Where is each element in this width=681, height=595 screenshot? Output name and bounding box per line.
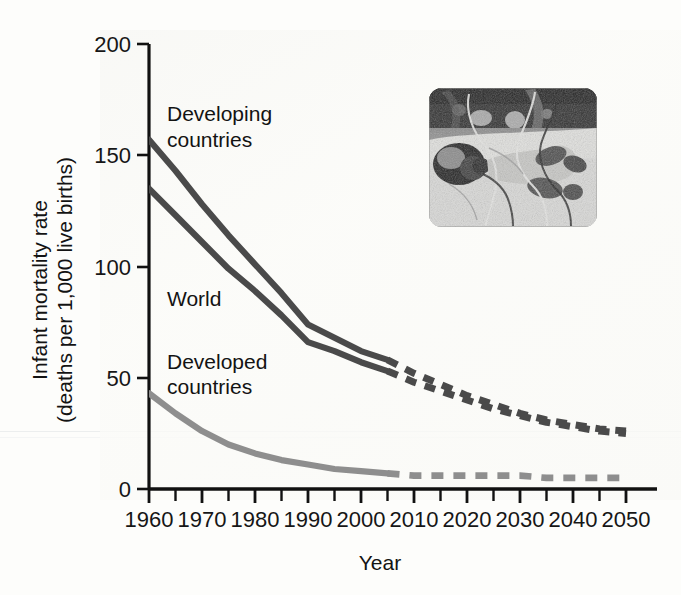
- x-tick-label-2020: 2020: [443, 507, 492, 532]
- y-tick-label-100: 100: [94, 255, 131, 280]
- x-tick-label-1990: 1990: [284, 507, 333, 532]
- x-tick-label-1970: 1970: [178, 507, 227, 532]
- developing-countries-label-line1: Developing: [167, 102, 272, 125]
- y-axis-title: Infant mortality rate (deaths per 1,000 …: [28, 157, 76, 423]
- x-axis-title: Year: [359, 551, 401, 574]
- x-tick-label-1980: 1980: [231, 507, 280, 532]
- inset-photo-graphic: [429, 88, 597, 227]
- world-label: World: [167, 287, 221, 310]
- y-tick-label-50: 50: [107, 366, 131, 391]
- developed-countries-label-line1: Developed: [167, 350, 267, 373]
- x-tick-label-2010: 2010: [390, 507, 439, 532]
- x-tick-label-2040: 2040: [549, 507, 598, 532]
- y-axis-title-line2: (deaths per 1,000 live births): [53, 157, 76, 423]
- y-tick-label-150: 150: [94, 143, 131, 168]
- y-tick-label-0: 0: [119, 477, 131, 502]
- x-tick-label-1960: 1960: [125, 507, 174, 532]
- developing-countries-label: Developing countries: [167, 102, 272, 151]
- y-axis-tick-labels: 200 150 100 50 0: [94, 32, 131, 502]
- premature-infant-photo: [429, 88, 597, 227]
- series-developed-countries-observed: [149, 393, 388, 473]
- y-axis: [137, 44, 149, 490]
- developed-countries-label: Developed countries: [167, 350, 267, 398]
- x-tick-label-2030: 2030: [496, 507, 545, 532]
- y-tick-label-200: 200: [94, 32, 131, 57]
- x-tick-label-2000: 2000: [337, 507, 386, 532]
- x-axis: [149, 489, 657, 503]
- x-tick-label-2050: 2050: [602, 507, 651, 532]
- series-developing-countries-projected: [388, 360, 627, 431]
- world-label-line1: World: [167, 287, 221, 310]
- developing-countries-label-line2: countries: [167, 128, 252, 151]
- series-developed-countries-projected: [388, 473, 627, 478]
- developed-countries-label-line2: countries: [167, 375, 252, 398]
- y-axis-title-line1: Infant mortality rate: [28, 200, 51, 380]
- series-developing-countries-observed: [149, 140, 388, 360]
- x-axis-tick-labels: 1960 1970 1980 1990 2000 2010 2020 2030 …: [125, 507, 651, 532]
